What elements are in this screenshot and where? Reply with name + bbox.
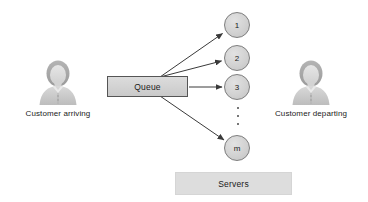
server-node-1: 1 [224,12,250,38]
queue-box: Queue [107,76,188,97]
ellipsis-dot [237,123,239,125]
server-node-m-label: m [234,144,241,153]
server-node-3-label: 3 [235,83,239,92]
person-icon [35,58,81,106]
customer-arriving-group: Customer arriving [3,58,113,119]
queueing-system-diagram: Customer arriving Customer departing Que… [0,0,368,202]
person-icon [288,58,334,106]
queue-label: Queue [134,82,161,92]
server-node-1-label: 1 [235,21,239,30]
connector-queue-to-server-m [160,96,224,140]
ellipsis-dot [237,115,239,117]
connector-queue-to-server-1 [160,34,223,78]
server-node-2: 2 [224,45,250,71]
vertical-ellipsis [236,107,240,131]
server-node-2-label: 2 [235,54,239,63]
connector-queue-to-server-2 [160,61,222,77]
customer-arriving-label: Customer arriving [3,109,113,119]
customer-departing-group: Customer departing [256,58,366,119]
ellipsis-dot [237,107,239,109]
customer-departing-label: Customer departing [256,109,366,119]
server-node-3: 3 [224,74,250,100]
servers-group-label: Servers [218,179,249,189]
servers-group-box: Servers [175,172,292,195]
server-node-m: m [224,135,250,161]
